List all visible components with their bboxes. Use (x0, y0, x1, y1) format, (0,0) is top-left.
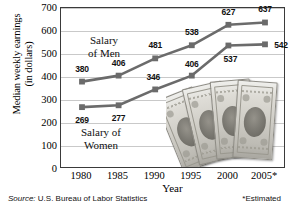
x-axis-tick-label: 1995 (180, 170, 201, 181)
data-point-marker (262, 20, 268, 26)
estimated-note: *Estimated (242, 194, 281, 203)
data-value-label: 269 (75, 115, 89, 125)
annotation-men-line1: Salary (90, 34, 118, 46)
data-point-marker (79, 79, 85, 85)
data-point-marker (116, 102, 122, 108)
data-point-marker (189, 73, 195, 79)
data-value-label: 277 (112, 113, 126, 123)
annotation-women-line2: Women (84, 139, 118, 151)
data-value-label: 380 (75, 64, 89, 74)
plot-area: Salary of Men Salary of Women 3804064815… (60, 7, 285, 168)
data-point-marker (262, 41, 268, 47)
data-value-label: 406 (112, 58, 126, 68)
y-axis-tick-label: 400 (27, 71, 57, 82)
y-axis-tick-label: 700 (27, 2, 57, 13)
data-value-label: 346 (146, 72, 160, 82)
y-axis-tick-labels: 7006005004003002001000 (25, 7, 57, 168)
y-axis-tick-label: 600 (27, 25, 57, 36)
data-point-marker (226, 22, 232, 28)
y-axis-tick-label: 100 (27, 140, 57, 151)
y-axis-tick-label: 0 (27, 163, 57, 174)
data-value-label: 537 (224, 54, 238, 64)
annotation-women-line1: Salary of (81, 126, 121, 138)
x-axis-tick-label: 2005* (251, 170, 277, 181)
source-note: Source: U.S. Bureau of Labor Statistics (8, 194, 147, 203)
data-value-label: 627 (222, 7, 236, 17)
x-axis-tick-label: 2000 (217, 170, 238, 181)
chart-footer: Source: U.S. Bureau of Labor Statistics … (4, 194, 287, 207)
y-axis-tick-label: 200 (27, 117, 57, 128)
data-value-label: 637 (258, 4, 272, 14)
data-point-marker (189, 42, 195, 48)
x-axis-tick-label: 1985 (107, 170, 128, 181)
data-point-marker (152, 87, 158, 93)
data-value-label: 538 (185, 27, 199, 37)
annotation-salary-of-men: Salary of Men (88, 34, 120, 59)
chart-figure: Median weekly earnings (in dollars) 7006… (0, 0, 291, 209)
data-point-marker (79, 104, 85, 110)
data-value-label: 406 (185, 59, 199, 69)
y-axis-tick-label: 500 (27, 48, 57, 59)
data-point-marker (152, 55, 158, 61)
annotation-salary-of-women: Salary of Women (81, 126, 121, 151)
x-axis-title: Year (60, 182, 285, 194)
y-axis-title-line1: Median weekly earnings (11, 13, 22, 114)
data-value-label: 542 (274, 40, 288, 50)
x-axis-tick-label: 1980 (71, 170, 92, 181)
data-point-marker (226, 43, 232, 49)
data-point-marker (116, 73, 122, 79)
y-axis-tick-label: 300 (27, 94, 57, 105)
x-axis-tick-label: 1990 (144, 170, 165, 181)
source-value: U.S. Bureau of Labor Statistics (38, 194, 147, 203)
data-value-label: 481 (148, 40, 162, 50)
source-label: Source: (8, 194, 36, 203)
